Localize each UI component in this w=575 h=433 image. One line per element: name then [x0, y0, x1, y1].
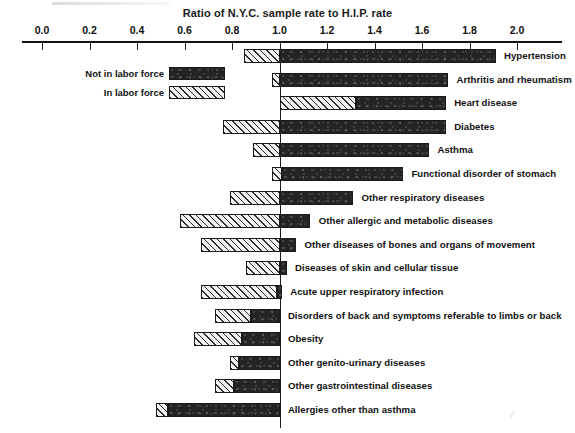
bar-segment-not-in-labor-force[interactable] [280, 191, 354, 205]
bar-segment-not-in-labor-force[interactable] [280, 49, 496, 63]
bar-row[interactable]: Other gastrointestinal diseases [0, 379, 575, 393]
bar-segment-not-in-labor-force[interactable] [280, 73, 449, 87]
bar-segment-in-labor-force[interactable] [201, 285, 277, 299]
bar-category-label: Diabetes [454, 121, 494, 132]
bar-segment-not-in-labor-force[interactable] [277, 285, 282, 299]
bar-row[interactable]: Other genito-urinary diseases [0, 356, 575, 370]
bar-segment-not-in-labor-force[interactable] [280, 261, 287, 275]
bar-segment-in-labor-force[interactable] [223, 120, 280, 134]
x-tick-label: 1.6 [415, 24, 430, 36]
corner-mark: ⁄ [511, 410, 513, 421]
bar-segment-in-labor-force[interactable] [156, 403, 168, 417]
bar-row[interactable]: Allergies other than asthma [0, 403, 575, 417]
bar-category-label: Asthma [438, 144, 474, 155]
bar-segment-not-in-labor-force[interactable] [239, 356, 279, 370]
bar-segment-in-labor-force[interactable] [244, 49, 280, 63]
bar-category-label: Other genito-urinary diseases [288, 357, 425, 368]
x-tick-label: 0.4 [130, 24, 145, 36]
bar-row[interactable]: Diseases of skin and cellular tissue [0, 261, 575, 275]
bar-segment-in-labor-force[interactable] [272, 167, 282, 181]
bar-category-label: Hypertension [504, 50, 566, 61]
bar-category-label: Other respiratory diseases [362, 192, 485, 203]
bar-segment-not-in-labor-force[interactable] [242, 332, 280, 346]
x-tick-label: 0.0 [35, 24, 50, 36]
bar-segment-not-in-labor-force[interactable] [280, 238, 297, 252]
chart-container: Ratio of N.Y.C. sample rate to H.I.P. ra… [0, 0, 575, 433]
bar-row[interactable]: Asthma [0, 143, 575, 157]
bar-category-label: Heart disease [454, 97, 517, 108]
bar-category-label: Functional disorder of stomach [411, 168, 556, 179]
x-tick-label: 1.4 [367, 24, 382, 36]
bar-category-label: Other gastrointestinal diseases [288, 380, 432, 391]
bar-row[interactable]: Acute upper respiratory infection [0, 285, 575, 299]
bar-segment-not-in-labor-force[interactable] [280, 214, 311, 228]
bar-segment-in-labor-force[interactable] [253, 143, 279, 157]
bar-row[interactable]: Other diseases of bones and organs of mo… [0, 238, 575, 252]
x-tick-label: 2.0 [510, 24, 525, 36]
bar-row[interactable]: Disorders of back and symptoms referable… [0, 309, 575, 323]
bar-segment-in-labor-force[interactable] [215, 309, 251, 323]
bar-row[interactable]: Other allergic and metabolic diseases [0, 214, 575, 228]
bar-segment-in-labor-force[interactable] [194, 332, 242, 346]
bar-segment-in-labor-force[interactable] [246, 261, 279, 275]
bar-row[interactable]: Diabetes [0, 120, 575, 134]
x-tick-label: 1.2 [320, 24, 335, 36]
bar-category-label: Disorders of back and symptoms referable… [288, 310, 562, 321]
bar-segment-not-in-labor-force[interactable] [282, 167, 403, 181]
chart-title: Ratio of N.Y.C. sample rate to H.I.P. ra… [0, 7, 575, 19]
bar-segment-not-in-labor-force[interactable] [251, 309, 280, 323]
bar-segment-in-labor-force[interactable] [180, 214, 280, 228]
bar-segment-in-labor-force[interactable] [280, 96, 356, 110]
bar-category-label: Obesity [288, 333, 324, 344]
bar-segment-in-labor-force[interactable] [201, 238, 279, 252]
bar-segment-in-labor-force[interactable] [215, 379, 234, 393]
bar-segment-in-labor-force[interactable] [230, 356, 240, 370]
x-tick-label: 1.0 [272, 24, 287, 36]
bar-segment-not-in-labor-force[interactable] [280, 143, 430, 157]
x-tick-label: 0.8 [225, 24, 240, 36]
x-tick-label: 0.2 [82, 24, 97, 36]
bar-segment-in-labor-force[interactable] [272, 73, 279, 87]
bar-category-label: Arthritis and rheumatism [457, 74, 572, 85]
x-tick-label: 0.6 [177, 24, 192, 36]
scan-artifact [52, 2, 170, 5]
bar-category-label: Other allergic and metabolic diseases [319, 215, 493, 226]
bar-segment-in-labor-force[interactable] [230, 191, 280, 205]
bar-category-label: Allergies other than asthma [288, 404, 416, 415]
bar-row[interactable]: Hypertension [0, 49, 575, 63]
bar-category-label: Diseases of skin and cellular tissue [295, 262, 458, 273]
bar-segment-not-in-labor-force[interactable] [356, 96, 446, 110]
x-tick-label: 1.8 [462, 24, 477, 36]
bar-segment-not-in-labor-force[interactable] [280, 120, 446, 134]
bar-segment-not-in-labor-force[interactable] [168, 403, 280, 417]
bar-category-label: Other diseases of bones and organs of mo… [305, 239, 535, 250]
bar-row[interactable]: Other respiratory diseases [0, 191, 575, 205]
bar-row[interactable]: Arthritis and rheumatism [0, 73, 575, 87]
x-axis-line [22, 41, 562, 43]
bar-row[interactable]: Heart disease [0, 96, 575, 110]
bar-category-label: Acute upper respiratory infection [290, 286, 443, 297]
bar-row[interactable]: Obesity [0, 332, 575, 346]
bar-row[interactable]: Functional disorder of stomach [0, 167, 575, 181]
bar-segment-not-in-labor-force[interactable] [234, 379, 279, 393]
